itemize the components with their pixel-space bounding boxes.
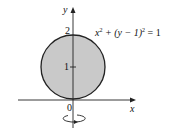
tick-label-2: 2 bbox=[65, 26, 70, 36]
equation-rhs: = 1 bbox=[145, 27, 161, 38]
circle-equation: x2 + (y − 1)2 = 1 bbox=[95, 27, 161, 38]
diagram-canvas bbox=[0, 0, 172, 139]
x-axis-label: x bbox=[130, 104, 134, 114]
rotation-arrowhead-icon bbox=[74, 120, 78, 124]
y-axis-label: y bbox=[63, 5, 67, 15]
tick-label-1: 1 bbox=[64, 62, 69, 72]
y-axis-arrow-icon bbox=[71, 7, 76, 13]
origin-label: 0 bbox=[67, 103, 72, 113]
equation-mid: + (y − 1) bbox=[102, 27, 142, 38]
x-axis-arrow-icon bbox=[130, 98, 136, 103]
